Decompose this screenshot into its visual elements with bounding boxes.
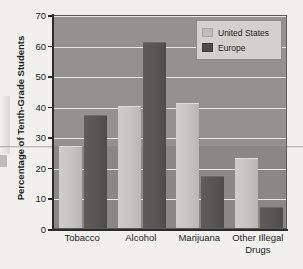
bar-europe-tobacco	[84, 115, 107, 228]
y-tick-label-60: 60	[2, 40, 46, 51]
y-tick-60	[48, 46, 53, 48]
y-tick-label-10: 10	[2, 193, 46, 204]
gridline-70	[54, 16, 286, 17]
bar-europe-marijuana	[201, 176, 224, 228]
y-tick-label-50: 50	[2, 71, 46, 82]
y-tick-70	[48, 15, 53, 17]
x-axis-line	[52, 229, 288, 231]
y-tick-10	[48, 198, 53, 200]
x-axis-tick-labels: TobaccoAlcoholMarijuanaOther IllegalDrug…	[53, 232, 287, 268]
chart-figure: Percentage of Tenth-Grade Students 01020…	[0, 0, 303, 269]
legend-swatch-united-states	[202, 28, 213, 37]
bar-united-states-marijuana	[176, 103, 199, 228]
legend-label-europe: Europe	[218, 43, 245, 53]
plot-area: United States Europe	[53, 15, 287, 229]
bar-europe-alcohol	[143, 42, 166, 229]
y-tick-20	[48, 168, 53, 170]
y-tick-0	[48, 229, 53, 231]
y-axis-tick-labels: 010203040506070	[0, 0, 46, 269]
y-tick-label-70: 70	[2, 10, 46, 21]
legend-swatch-europe	[202, 43, 213, 52]
y-tick-50	[48, 76, 53, 78]
y-tick-30	[48, 137, 53, 139]
x-tick-label-line1: Other Illegal	[222, 232, 294, 244]
y-tick-label-0: 0	[2, 224, 46, 235]
y-tick-label-20: 20	[2, 162, 46, 173]
y-tick-label-40: 40	[2, 101, 46, 112]
bar-europe-other-illegal	[260, 207, 283, 228]
y-tick-40	[48, 107, 53, 109]
bar-united-states-alcohol	[118, 106, 141, 228]
x-tick-label-line2: Drugs	[222, 244, 294, 256]
bar-united-states-other-illegal	[235, 158, 258, 228]
legend: United States Europe	[196, 20, 282, 60]
legend-item-united-states: United States	[202, 25, 277, 40]
y-tick-label-30: 30	[2, 132, 46, 143]
gridline-50	[54, 77, 286, 78]
bar-united-states-tobacco	[59, 146, 82, 229]
x-tick-label-other-illegal: Other IllegalDrugs	[222, 232, 294, 256]
gridline-40	[54, 108, 286, 109]
legend-label-united-states: United States	[218, 28, 269, 38]
legend-item-europe: Europe	[202, 40, 277, 55]
